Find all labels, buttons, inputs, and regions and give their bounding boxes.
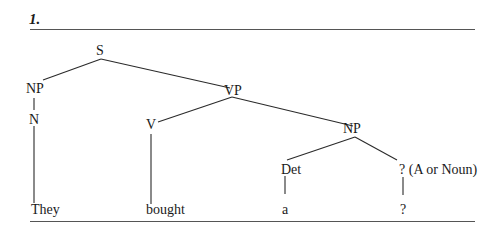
node-n: N xyxy=(29,113,39,127)
node-v: V xyxy=(146,118,156,132)
word-bought: bought xyxy=(146,203,185,217)
node-np-object: NP xyxy=(343,122,361,136)
node-det: Det xyxy=(281,163,301,177)
tree-edges xyxy=(0,0,503,230)
word-a: a xyxy=(282,203,288,217)
word-they: They xyxy=(31,203,60,217)
node-vp: VP xyxy=(224,84,242,98)
node-s: S xyxy=(96,44,104,58)
node-unknown-category: ? (A or Noun) xyxy=(399,163,477,177)
word-unknown: ? xyxy=(400,203,406,217)
node-np-subject: NP xyxy=(26,82,44,96)
